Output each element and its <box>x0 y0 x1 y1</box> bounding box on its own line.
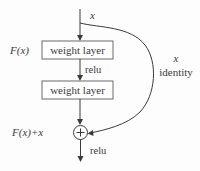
identity-shortcut-head <box>88 130 94 136</box>
sum-label: F(x)+x <box>11 126 43 139</box>
input-x-label: x <box>89 9 95 21</box>
function-fx-label: F(x) <box>9 44 29 57</box>
weight-layer-2-label: weight layer <box>50 84 105 96</box>
identity-shortcut-curve <box>80 23 154 133</box>
diagram-svg: x weight layer F(x) relu weight layer F(… <box>0 0 200 171</box>
weight-layer-1-label: weight layer <box>50 44 105 56</box>
identity-label: identity <box>159 66 193 78</box>
shortcut-x-label: x <box>173 52 179 64</box>
inner-relu-label: relu <box>85 64 102 75</box>
inner-arrow-head <box>77 75 83 81</box>
output-arrow-head <box>78 156 84 162</box>
to-adder-head <box>77 119 83 125</box>
output-relu-label: relu <box>90 145 107 156</box>
residual-block-diagram: x weight layer F(x) relu weight layer F(… <box>0 0 200 171</box>
input-arrow-head <box>77 35 83 41</box>
